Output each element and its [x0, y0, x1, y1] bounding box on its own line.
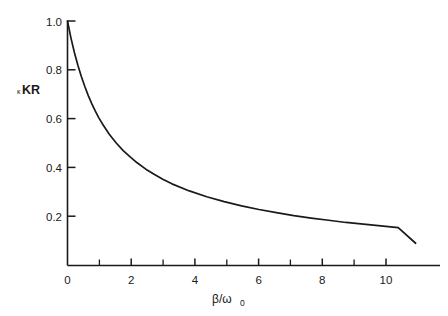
y-tick-label: 0.8 — [46, 64, 62, 76]
x-tick-label: 10 — [380, 274, 393, 286]
x-axis-title-subscript: 0 — [240, 298, 245, 308]
chart-figure: 1.0 0.8 0.6 0.4 0.2 0 2 4 6 — [0, 0, 448, 316]
x-tick-label: 2 — [128, 274, 134, 286]
y-axis-title-main: KR — [22, 83, 40, 97]
x-tick-label: 0 — [64, 274, 70, 286]
y-tick-label: 0.2 — [46, 211, 62, 223]
x-tick-label: 8 — [319, 274, 325, 286]
chart-svg: 1.0 0.8 0.6 0.4 0.2 0 2 4 6 — [0, 0, 448, 316]
y-tick-label: 1.0 — [46, 16, 62, 28]
x-tick-label: 6 — [255, 274, 261, 286]
y-tick-label: 0.6 — [46, 113, 62, 125]
y-tick-label: 0.4 — [46, 162, 63, 174]
x-tick-label: 4 — [192, 274, 199, 286]
y-axis-title-prefix: κ — [17, 88, 21, 95]
x-axis-title-main: β/ω — [212, 292, 232, 306]
